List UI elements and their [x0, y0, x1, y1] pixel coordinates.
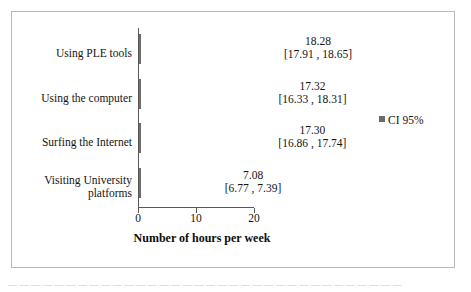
- caption-strip: — — — — — — — — — — — — — — — — — — — — …: [0, 281, 471, 292]
- bar-row-3: [139, 168, 180, 198]
- bar-row-1: [139, 79, 239, 109]
- x-tick-label-20: 20: [239, 212, 269, 224]
- chart-legend[interactable]: CI 95%: [379, 113, 423, 126]
- chart-figure: Using PLE tools Using the computer Surfi…: [11, 11, 455, 268]
- category-label-0: Using PLE tools: [16, 47, 132, 60]
- value-mean-3: 7.08: [193, 169, 313, 182]
- value-ci-2: [16.86 , 17.74]: [252, 137, 372, 150]
- value-mean-1: 17.32: [252, 80, 372, 93]
- x-tick-label-0: 0: [123, 212, 153, 224]
- x-axis-title: Number of hours per week: [72, 231, 332, 246]
- bar-using-ple-tools[interactable]: [139, 34, 141, 64]
- value-label-1: 17.32 [16.33 , 18.31]: [252, 80, 372, 106]
- value-ci-1: [16.33 , 18.31]: [252, 93, 372, 106]
- category-label-3-line2: platforms: [88, 187, 132, 199]
- bar-visiting-university-platforms[interactable]: [139, 168, 141, 198]
- plot-area: Using PLE tools Using the computer Surfi…: [12, 12, 456, 269]
- bar-using-the-computer[interactable]: [139, 79, 141, 109]
- value-label-2: 17.30 [16.86 , 17.74]: [252, 124, 372, 150]
- value-mean-2: 17.30: [252, 124, 372, 137]
- caption-text: — — — — — — — — — — — — — — — — — — — — …: [0, 281, 471, 289]
- category-label-1: Using the computer: [16, 92, 132, 105]
- value-label-0: 18.28 [17.91 , 18.65]: [258, 35, 378, 61]
- legend-swatch-icon: [379, 116, 385, 122]
- legend-label-ci95: CI 95%: [388, 114, 423, 126]
- category-label-2: Surfing the Internet: [16, 136, 132, 149]
- bar-surfing-the-internet[interactable]: [139, 123, 141, 153]
- bar-row-0: [139, 34, 245, 64]
- category-label-3: Visiting University platforms: [16, 174, 132, 199]
- value-ci-0: [17.91 , 18.65]: [258, 48, 378, 61]
- bar-row-2: [139, 123, 239, 153]
- value-mean-0: 18.28: [258, 35, 378, 48]
- value-ci-3: [6.77 , 7.39]: [193, 182, 313, 195]
- category-label-3-line1: Visiting University: [44, 174, 132, 186]
- value-label-3: 7.08 [6.77 , 7.39]: [193, 169, 313, 195]
- x-tick-label-10: 10: [181, 212, 211, 224]
